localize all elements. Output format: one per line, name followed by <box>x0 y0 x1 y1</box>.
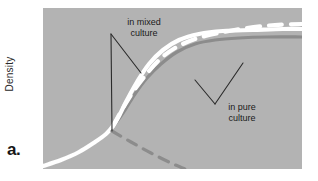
y-axis-label-text: Density <box>4 44 15 104</box>
leader-line-mixed-leader-diagonal <box>111 34 141 73</box>
annotation-in-mixed-culture: in mixed culture <box>108 17 180 39</box>
annotation-in-pure-culture: in pure culture <box>208 102 276 124</box>
leader-line-pure-leader-to-gray <box>195 80 215 104</box>
series-in-pure-culture-dashed-decline <box>112 131 185 169</box>
panel-label: a. <box>7 141 20 158</box>
leader-line-mixed-leader-vertical <box>111 34 112 131</box>
leader-line-pure-leader-to-white <box>215 63 243 104</box>
y-axis-label: Density <box>4 44 24 104</box>
growth-curve-figure: a. Density in mixed culture in pure cult… <box>0 0 318 181</box>
